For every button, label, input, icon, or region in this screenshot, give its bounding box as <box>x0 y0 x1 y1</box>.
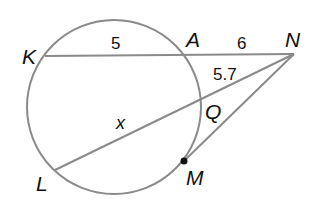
label-point-Q: Q <box>205 100 221 123</box>
length-KA: 5 <box>111 34 120 53</box>
circle-secant-diagram: K A N Q L M 5 6 5.7 x <box>0 0 328 205</box>
secant-KN <box>45 54 294 56</box>
label-point-M: M <box>186 166 204 189</box>
label-point-A: A <box>184 28 200 51</box>
label-point-L: L <box>36 172 48 195</box>
label-point-K: K <box>22 45 37 68</box>
length-LQ-variable: x <box>115 113 126 133</box>
label-point-N: N <box>285 28 301 51</box>
length-AN: 6 <box>237 34 246 53</box>
tangent-point-M-dot <box>181 158 188 165</box>
secant-LN <box>55 54 294 170</box>
length-QN: 5.7 <box>213 65 237 84</box>
